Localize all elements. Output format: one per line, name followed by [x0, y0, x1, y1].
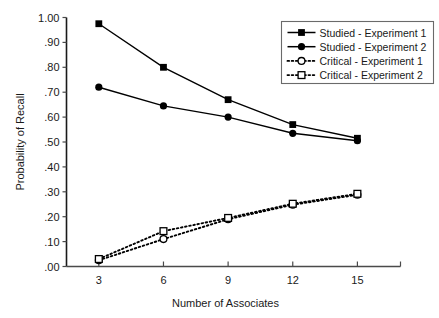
data-point-s1-2	[225, 114, 232, 121]
data-point-s1-4	[354, 137, 361, 144]
data-point-s3-2	[225, 215, 232, 222]
data-point-s1-1	[160, 102, 167, 109]
x-tick-label-3: 12	[287, 274, 299, 286]
series-line-2	[99, 195, 358, 260]
data-point-s1-0	[95, 84, 102, 91]
data-point-s0-0	[95, 20, 102, 27]
y-tick-label-2: .20	[44, 211, 59, 223]
y-tick-label-1: .10	[44, 236, 59, 248]
y-tick-label-4: .40	[44, 161, 59, 173]
legend-label-3: Critical - Experiment 2	[320, 69, 423, 81]
x-tick-label-0: 3	[96, 274, 102, 286]
y-tick-label-5: .50	[44, 136, 59, 148]
legend-marker-0	[298, 29, 305, 36]
x-tick-label-2: 9	[225, 274, 231, 286]
series-line-3	[99, 194, 358, 259]
data-point-s0-1	[160, 64, 167, 71]
data-point-s3-1	[160, 228, 167, 235]
x-tick-label-4: 15	[351, 274, 363, 286]
y-tick-label-6: .60	[44, 111, 59, 123]
y-axis-title: Probability of Recall	[14, 93, 26, 190]
legend-marker-2	[298, 58, 305, 65]
chart-canvas: .00.10.20.30.40.50.60.70.80.901.00369121…	[0, 0, 439, 318]
x-axis-title: Number of Associates	[172, 297, 279, 309]
y-tick-label-8: .80	[44, 61, 59, 73]
data-point-s2-1	[160, 236, 167, 243]
legend-label-1: Studied - Experiment 2	[320, 41, 427, 53]
legend-marker-1	[298, 43, 305, 50]
legend-label-0: Studied - Experiment 1	[320, 27, 427, 39]
y-tick-label-0: .00	[44, 261, 59, 273]
data-point-s3-4	[354, 190, 361, 197]
data-point-s0-3	[289, 121, 296, 128]
data-point-s3-0	[95, 256, 102, 263]
x-tick-label-1: 6	[160, 274, 166, 286]
y-tick-label-3: .30	[44, 186, 59, 198]
y-tick-label-7: .70	[44, 86, 59, 98]
data-point-s1-3	[289, 130, 296, 137]
legend-marker-3	[298, 72, 305, 79]
legend-label-2: Critical - Experiment 1	[320, 55, 423, 67]
data-point-s0-2	[225, 96, 232, 103]
figure-line-chart: .00.10.20.30.40.50.60.70.80.901.00369121…	[0, 0, 439, 318]
y-tick-label-10: 1.00	[38, 12, 59, 24]
data-point-s3-3	[289, 200, 296, 207]
y-tick-label-9: .90	[44, 36, 59, 48]
